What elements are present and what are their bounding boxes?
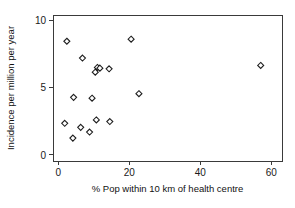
x-tick-label-0: 0 — [56, 167, 62, 178]
data-point: 20.5, 8.6 — [128, 36, 134, 42]
data-points-group: 2.4, 8.4520.5, 8.66.8, 7.257, 6.6511, 6.… — [62, 36, 264, 141]
data-point: 4.3, 4.28 — [71, 94, 77, 100]
x-tick-label-60: 60 — [266, 167, 278, 178]
data-point: 14.5, 2.48 — [107, 119, 113, 125]
data-point: 9.5, 4.22 — [89, 95, 95, 101]
data-point: 4.1, 1.25 — [70, 135, 76, 141]
data-point: 57, 6.65 — [258, 62, 264, 68]
y-tick-label-10: 10 — [35, 15, 47, 26]
x-tick-label-20: 20 — [124, 167, 136, 178]
data-point: 1.8, 2.35 — [62, 120, 68, 126]
y-axis-title: Incidence per million per year — [5, 26, 16, 150]
data-point: 6.8, 7.2 — [79, 55, 85, 61]
y-tick-label-0: 0 — [40, 150, 46, 161]
data-point: 8.8, 1.7 — [87, 129, 93, 135]
x-tick-label-40: 40 — [195, 167, 207, 178]
scatter-plot-figure: 05100204060% Pop within 10 km of health … — [0, 0, 295, 208]
x-axis-title: % Pop within 10 km of health centre — [92, 183, 244, 194]
data-point: 2.4, 8.45 — [64, 38, 70, 44]
data-point: 6.3, 2.05 — [78, 124, 84, 130]
chart-canvas: 05100204060% Pop within 10 km of health … — [0, 0, 295, 208]
plot-frame — [53, 15, 282, 161]
y-tick-label-5: 5 — [40, 82, 46, 93]
data-point: 10.7, 2.6 — [93, 117, 99, 123]
data-point: 14.3, 6.4 — [106, 66, 112, 72]
data-point: 22.7, 4.55 — [136, 91, 142, 97]
